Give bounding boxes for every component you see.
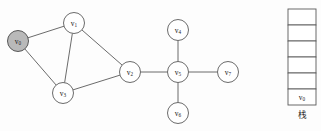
- stack-cell-4[interactable]: [288, 25, 316, 41]
- graph-node-v7[interactable]: v7: [218, 62, 239, 83]
- graph-node-layer: v0v1v2v3v4v5v6v7: [8, 13, 239, 124]
- graph-node-v2[interactable]: v2: [120, 62, 141, 83]
- stack-cell-1[interactable]: [288, 73, 316, 89]
- stack-cell-5[interactable]: [288, 9, 316, 25]
- stack-cell-2[interactable]: [288, 57, 316, 73]
- stack-cell-3[interactable]: [288, 41, 316, 57]
- graph-edge-v1-v2: [82, 30, 122, 65]
- graph-node-v4[interactable]: v4: [168, 20, 189, 41]
- graph-edge-v0-v1: [28, 26, 64, 38]
- stack-cell-0[interactable]: v0: [288, 89, 316, 105]
- graph-node-v5[interactable]: v5: [168, 62, 189, 83]
- graph-edge-v3-v2: [73, 75, 120, 90]
- graph-node-v6[interactable]: v6: [168, 103, 189, 124]
- stack-cell-box-3: [288, 41, 316, 57]
- stack-diagram: v0栈: [288, 9, 316, 120]
- stack-cell-box-2: [288, 57, 316, 73]
- stack-cell-box-5: [288, 9, 316, 25]
- graph-edge-v1-v3: [65, 33, 73, 82]
- graph-edge-v0-v3: [25, 49, 56, 85]
- graph-node-v3[interactable]: v3: [53, 83, 74, 104]
- stack-cell-box-1: [288, 73, 316, 89]
- stack-cell-box-4: [288, 25, 316, 41]
- dfs-graph-and-stack-figure: v0v1v2v3v4v5v6v7 v0栈: [0, 0, 321, 131]
- graph-node-v0[interactable]: v0: [8, 31, 29, 52]
- stack-caption: 栈: [298, 109, 307, 120]
- graph-node-v1[interactable]: v1: [64, 13, 85, 34]
